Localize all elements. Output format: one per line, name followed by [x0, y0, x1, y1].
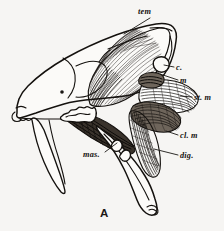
infraorbital-foramen	[60, 90, 64, 94]
figure-background	[0, 0, 224, 231]
skull-musculature-illustration: tem c. m st. m cl. m dig. mas. A	[0, 0, 224, 231]
label-cl-m: cl. m	[180, 131, 198, 140]
figure-label: A	[100, 207, 109, 219]
m-muscle-band	[139, 73, 165, 88]
label-tem: tem	[138, 7, 151, 16]
label-c: c.	[176, 63, 182, 72]
label-mas: mas.	[83, 150, 100, 159]
condyle-process	[153, 57, 169, 73]
label-st-m: st. m	[193, 93, 211, 102]
anatomical-figure-panel: tem c. m st. m cl. m dig. mas. A	[0, 0, 224, 231]
label-dig: dig.	[180, 151, 193, 160]
label-m: m	[180, 76, 187, 85]
